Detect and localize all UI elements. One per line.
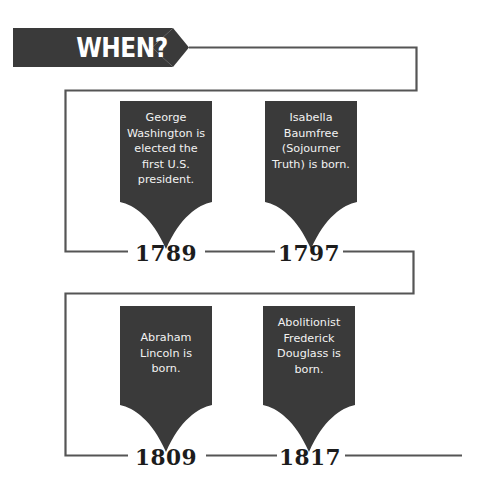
event-year: 1797 [274,239,344,266]
event-banner: George Washington is elected the first U… [120,101,212,249]
timeline-infographic: WHEN? George Washington is elected the f… [0,0,492,498]
page-title: WHEN? [35,28,173,67]
event-banner: Abolitionist Frederick Douglass is born. [263,306,355,452]
event-year: 1789 [128,239,203,266]
event-year: 1817 [274,443,345,470]
event-description: George Washington is elected the first U… [120,101,212,188]
event-banner: Isabella Baumfree (Sojourner Truth) is b… [265,101,357,249]
event-banner: Abraham Lincoln is born. [120,306,212,452]
event-year: 1809 [128,443,203,470]
event-description: Isabella Baumfree (Sojourner Truth) is b… [265,101,357,172]
event-description: Abraham Lincoln is born. [120,306,212,377]
header-ribbon: WHEN? [13,28,189,67]
timeline-connector-path [0,0,492,498]
event-description: Abolitionist Frederick Douglass is born. [263,306,355,377]
